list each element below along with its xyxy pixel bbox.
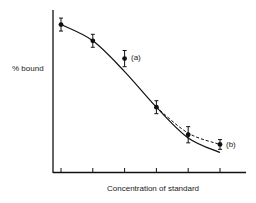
y-axis-label: % bound (12, 64, 44, 73)
annotation-b: (b) (226, 140, 236, 149)
data-point (90, 34, 95, 47)
chart-canvas (0, 0, 256, 203)
x-axis-label: Concentration of standard (107, 184, 199, 193)
fitted-curve-solid (61, 25, 220, 153)
x-axis-ticks (61, 168, 220, 172)
data-points (59, 18, 223, 149)
data-point (122, 51, 127, 67)
data-point (218, 140, 223, 150)
data-point (154, 101, 159, 114)
data-point (186, 127, 191, 143)
annotation-a: (a) (131, 53, 141, 62)
data-point (59, 18, 64, 31)
